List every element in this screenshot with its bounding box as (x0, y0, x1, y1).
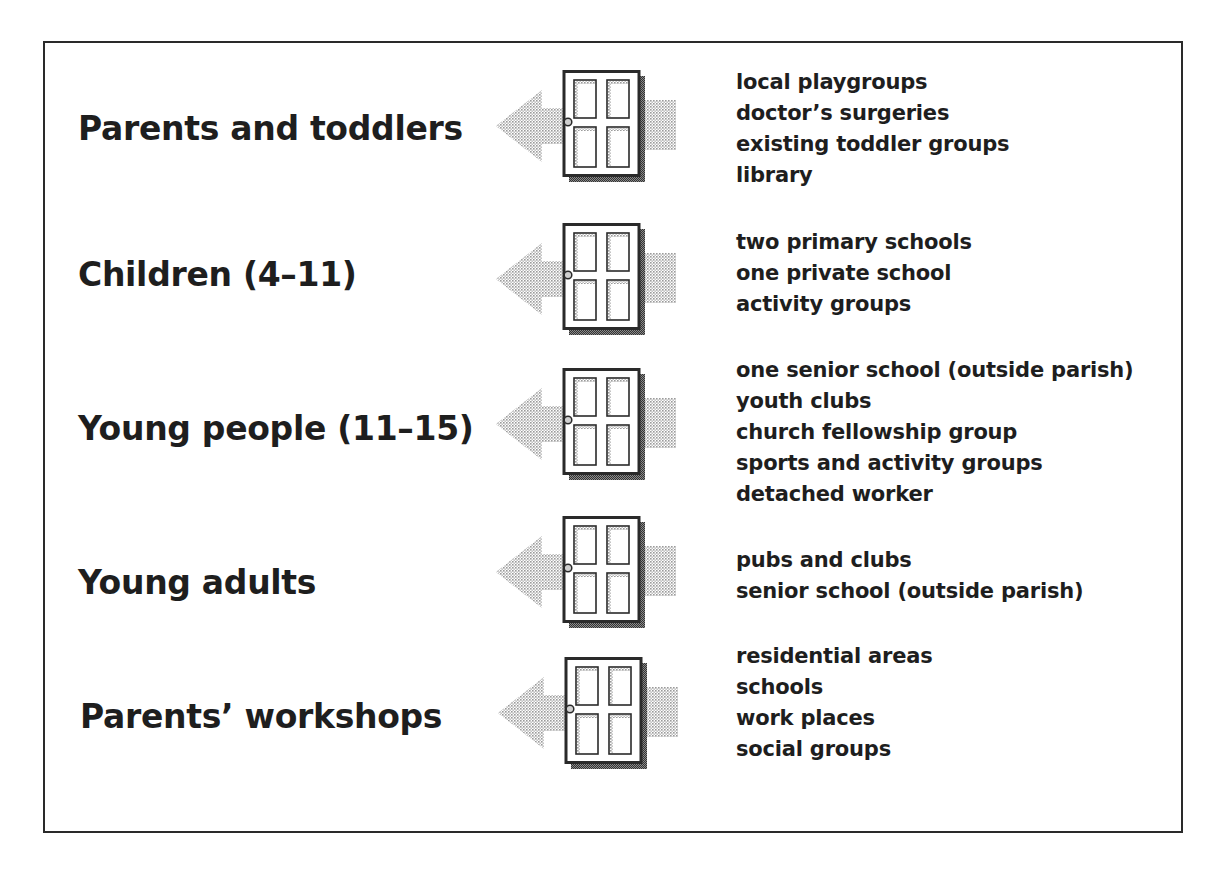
list-item: social groups (736, 734, 932, 765)
list-item: residential areas (736, 641, 932, 672)
list-item: one private school (736, 258, 972, 289)
audience-label-parents-workshops: Parents’ workshops (80, 700, 442, 733)
list-item: work places (736, 703, 932, 734)
audience-label-young-adults: Young adults (78, 566, 316, 599)
door-with-arrow-icon (494, 368, 679, 480)
access-points-list: residential areas schools work places so… (736, 641, 932, 765)
door-with-arrow-icon (494, 70, 679, 182)
list-item: library (736, 160, 1009, 191)
list-item: schools (736, 672, 932, 703)
access-points-list: pubs and clubs senior school (outside pa… (736, 545, 1083, 607)
list-item: two primary schools (736, 227, 972, 258)
list-item: pubs and clubs (736, 545, 1083, 576)
audience-label-young-people: Young people (11–15) (78, 412, 474, 445)
door-with-arrow-icon (496, 657, 681, 769)
access-points-list: two primary schools one private school a… (736, 227, 972, 320)
list-item: local playgroups (736, 67, 1009, 98)
audience-label-children: Children (4–11) (78, 258, 357, 291)
list-item: existing toddler groups (736, 129, 1009, 160)
access-points-list: local playgroups doctor’s surgeries exis… (736, 67, 1009, 191)
door-with-arrow-icon (494, 516, 679, 628)
list-item: one senior school (outside parish) (736, 355, 1133, 386)
door-with-arrow-icon (494, 223, 679, 335)
audience-label-parents-toddlers: Parents and toddlers (78, 112, 463, 145)
access-points-list: one senior school (outside parish) youth… (736, 355, 1133, 510)
list-item: senior school (outside parish) (736, 576, 1083, 607)
list-item: youth clubs (736, 386, 1133, 417)
list-item: doctor’s surgeries (736, 98, 1009, 129)
list-item: sports and activity groups (736, 448, 1133, 479)
list-item: church fellowship group (736, 417, 1133, 448)
list-item: activity groups (736, 289, 972, 320)
list-item: detached worker (736, 479, 1133, 510)
